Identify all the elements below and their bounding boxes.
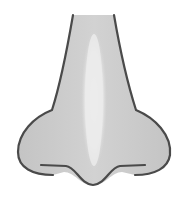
nose-highlight-core [85,34,103,166]
nose-icon [0,0,184,221]
nose-illustration [0,0,184,221]
